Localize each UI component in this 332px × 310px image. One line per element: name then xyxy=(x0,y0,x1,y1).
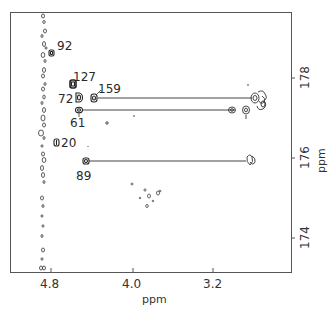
peak-92 xyxy=(49,50,54,56)
label-159: 159 xyxy=(98,82,121,96)
label-61: 61 xyxy=(70,116,85,130)
y-tick-label: 174 xyxy=(298,226,312,249)
peak-72 xyxy=(76,93,83,102)
y-axis: 178 176 174 ppm xyxy=(291,66,328,249)
x-tick-label: 4.0 xyxy=(122,277,141,291)
label-20: 20 xyxy=(61,136,76,150)
y-tick-label: 176 xyxy=(298,146,312,169)
peak-89 xyxy=(83,158,89,164)
y-axis-title: ppm xyxy=(315,148,328,173)
label-92: 92 xyxy=(57,39,72,53)
peak-61 xyxy=(76,107,83,113)
x-tick-label: 4.8 xyxy=(40,277,59,291)
label-89: 89 xyxy=(76,169,91,183)
peak-20 xyxy=(54,139,59,146)
label-127: 127 xyxy=(73,70,96,84)
x-axis-title: ppm xyxy=(142,293,167,306)
connector-lines xyxy=(82,98,252,161)
y-tick-label: 178 xyxy=(298,66,312,89)
label-72: 72 xyxy=(58,92,73,106)
noise-column xyxy=(39,14,48,270)
nmr-spectrum: 4.8 4.0 3.2 ppm 178 176 174 ppm xyxy=(0,0,332,310)
x-axis: 4.8 4.0 3.2 ppm xyxy=(40,268,222,306)
minor-peaks-cluster xyxy=(131,183,161,208)
right-cross-peaks xyxy=(88,84,266,165)
x-tick-label: 3.2 xyxy=(203,277,222,291)
peak-159 xyxy=(91,94,97,102)
